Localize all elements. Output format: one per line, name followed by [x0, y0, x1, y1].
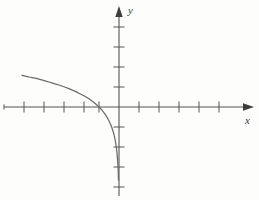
function-curve — [22, 75, 118, 180]
x-axis-arrowhead-right — [243, 103, 254, 110]
y-axis-arrowhead-top — [115, 6, 122, 17]
x-axis-label: x — [244, 114, 250, 126]
graph-figure: y x — [0, 0, 259, 200]
y-axis-label: y — [127, 4, 133, 16]
coordinate-plane: y x — [0, 0, 259, 200]
